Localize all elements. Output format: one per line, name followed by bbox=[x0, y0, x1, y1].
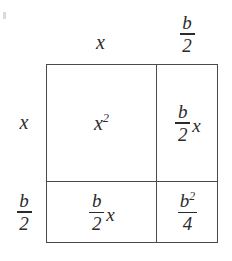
cell-top-right-variable: x bbox=[192, 115, 200, 137]
fraction-denominator: 2 bbox=[176, 125, 190, 144]
column-label-left-text: x bbox=[96, 32, 105, 52]
power-exponent: 2 bbox=[189, 190, 195, 203]
power-base: b bbox=[180, 190, 190, 211]
scan-artifact bbox=[3, 12, 6, 19]
row-label-top: x bbox=[4, 64, 44, 180]
fraction-denominator: 2 bbox=[90, 214, 104, 233]
power-base: x bbox=[94, 112, 103, 134]
cell-top-right: b 2 x bbox=[157, 65, 218, 181]
cell-top-left: x2 bbox=[47, 65, 156, 181]
fraction-denominator: 2 bbox=[17, 214, 31, 233]
cell-bottom-left: b 2 x bbox=[47, 182, 156, 243]
fraction-numerator: b bbox=[176, 102, 190, 121]
fraction-numerator: b bbox=[180, 13, 194, 32]
row-label-top-text: x bbox=[20, 112, 29, 132]
row-label-bottom: b 2 bbox=[4, 181, 44, 243]
cell-top-right-fraction: b 2 bbox=[174, 102, 191, 144]
cell-bottom-left-expression: b 2 x bbox=[88, 191, 114, 233]
completing-the-square-diagram: x b 2 x b 2 x2 b bbox=[0, 0, 232, 261]
fraction-numerator: b bbox=[17, 191, 31, 210]
cell-bottom-right-fraction: b2 4 bbox=[177, 191, 198, 233]
cell-bottom-left-variable: x bbox=[106, 204, 114, 226]
column-label-left: x bbox=[46, 24, 155, 60]
cell-top-left-expression: x2 bbox=[94, 113, 109, 133]
column-label-right: b 2 bbox=[156, 8, 218, 60]
cell-bottom-right: b2 4 bbox=[157, 182, 218, 243]
cell-top-right-expression: b 2 x bbox=[174, 102, 200, 144]
power-exponent: 2 bbox=[103, 111, 109, 125]
area-model-grid: x2 b 2 x b 2 x bbox=[46, 64, 218, 243]
column-label-right-fraction: b 2 bbox=[179, 13, 196, 55]
fraction-denominator: 4 bbox=[181, 214, 195, 233]
fraction-numerator: b bbox=[90, 191, 104, 210]
fraction-denominator: 2 bbox=[180, 36, 194, 55]
cell-bottom-left-fraction: b 2 bbox=[88, 191, 105, 233]
fraction-numerator-power: b2 bbox=[178, 191, 197, 210]
row-label-bottom-fraction: b 2 bbox=[16, 191, 33, 233]
